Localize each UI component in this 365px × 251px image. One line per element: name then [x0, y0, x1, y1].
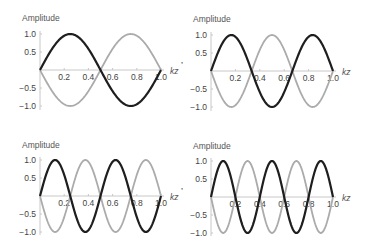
y-axis-label: Amplitude — [193, 141, 231, 151]
x-tick-label: 0.8 — [131, 72, 143, 82]
y-axis-label: Amplitude — [22, 13, 60, 23]
x-axis-label: kz — [342, 193, 351, 203]
chart-panel-mode-5: Amplitude1.00.5−0.5−1.00.20.40.60.81.0kz — [190, 141, 351, 238]
y-tick-label: −0.5 — [190, 210, 207, 220]
x-axis-label: kz — [170, 192, 179, 202]
y-tick-label: −0.5 — [190, 84, 207, 94]
y-tick-label: 0.5 — [195, 174, 207, 184]
y-tick-label: −1.0 — [190, 102, 207, 112]
chart-panel-mode-4: Amplitude1.00.5−0.5−1.00.20.40.60.81.0kz… — [19, 140, 183, 237]
y-tick-label: −1.0 — [19, 227, 36, 237]
chart-panel-mode-3: Amplitude1.00.5−0.5−1.00.20.40.60.81.0kz — [190, 14, 351, 112]
y-tick-label: 0.5 — [195, 48, 207, 58]
x-tick-label: 0.6 — [107, 72, 119, 82]
y-tick-label: 0.5 — [24, 173, 36, 183]
x-tick-label: 0.2 — [58, 72, 70, 82]
y-tick-label: −1.0 — [19, 101, 36, 111]
x-tick-label: 0.6 — [107, 198, 119, 208]
y-tick-label: −1.0 — [190, 228, 207, 238]
trailing-comma: ’ — [181, 186, 183, 196]
x-axis-label: kz — [170, 66, 179, 76]
y-tick-label: 1.0 — [195, 30, 207, 40]
x-axis-label: kz — [342, 67, 351, 77]
y-axis-label: Amplitude — [22, 140, 60, 150]
y-tick-label: 0.5 — [24, 47, 36, 57]
chart-figure: Amplitude1.00.5−0.5−1.00.20.40.60.81.0kz… — [0, 0, 365, 251]
y-tick-label: −0.5 — [19, 209, 36, 219]
y-tick-label: 1.0 — [195, 156, 207, 166]
y-tick-label: 1.0 — [24, 29, 36, 39]
x-tick-label: 0.4 — [82, 198, 94, 208]
y-tick-label: 1.0 — [24, 155, 36, 165]
chart-panel-mode-2: Amplitude1.00.5−0.5−1.00.20.40.60.81.0kz… — [19, 13, 183, 111]
x-tick-label: 0.8 — [303, 73, 315, 83]
trailing-comma: ’ — [181, 60, 183, 70]
y-tick-label: −0.5 — [19, 83, 36, 93]
x-tick-label: 0.4 — [82, 72, 94, 82]
x-tick-label: 0.2 — [229, 73, 241, 83]
y-axis-label: Amplitude — [193, 14, 231, 24]
